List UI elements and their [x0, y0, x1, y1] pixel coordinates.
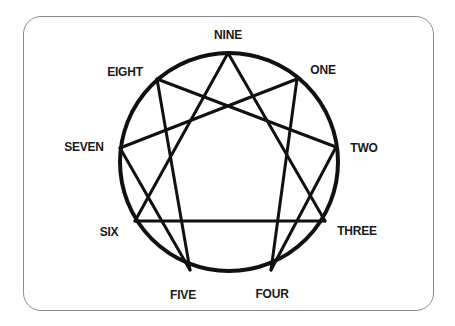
enneagram-diagram: [0, 0, 455, 326]
label-two: TWO: [350, 141, 377, 155]
label-six: SIX: [100, 225, 119, 239]
edge-1-4: [271, 79, 297, 270]
label-three: THREE: [337, 224, 377, 238]
label-eight: EIGHT: [107, 65, 143, 79]
label-nine: NINE: [214, 28, 242, 42]
outer-circle: [120, 53, 338, 271]
label-five: FIVE: [170, 288, 196, 302]
label-four: FOUR: [255, 287, 288, 301]
label-one: ONE: [310, 63, 335, 77]
label-seven: SEVEN: [64, 140, 104, 154]
